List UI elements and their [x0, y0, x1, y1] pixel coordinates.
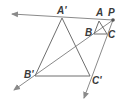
- label-b: B: [85, 27, 92, 38]
- dilation-diagram: A' A P B C B' C': [0, 0, 119, 106]
- label-a-prime: A': [56, 5, 67, 16]
- image-triangle: [35, 18, 90, 76]
- label-b-prime: B': [24, 69, 34, 80]
- label-p: P: [108, 7, 115, 18]
- label-a: A: [95, 7, 103, 18]
- label-c-prime: C': [92, 75, 102, 86]
- label-c: C: [108, 29, 116, 40]
- center-point-p: [111, 18, 115, 22]
